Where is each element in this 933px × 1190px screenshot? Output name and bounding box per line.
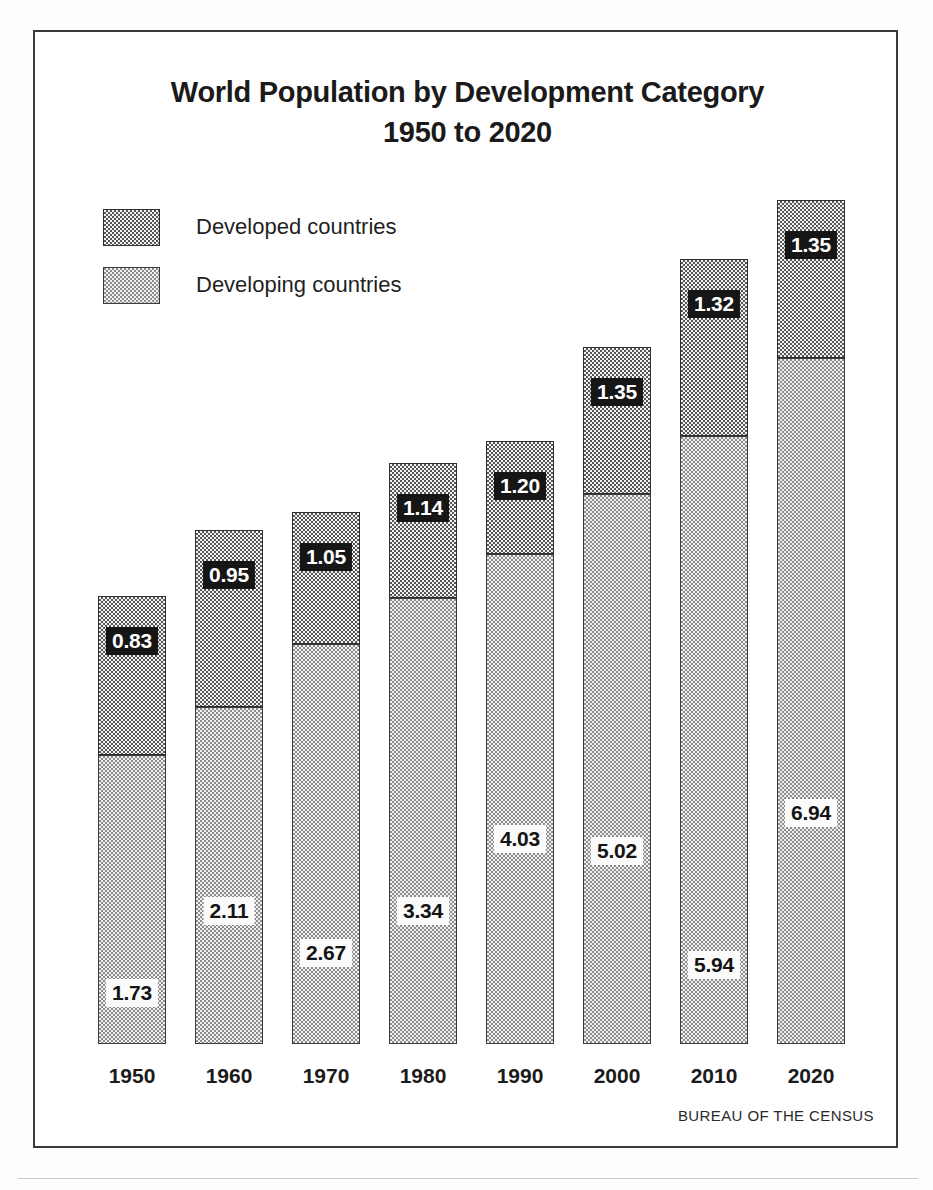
bar-value-label-developed: 1.32 xyxy=(688,290,740,318)
bar-segment-developed[interactable]: 1.35 xyxy=(777,200,845,358)
bar-group[interactable]: 1.143.34 xyxy=(389,463,457,1044)
bar-value-label-developing: 4.03 xyxy=(494,825,546,853)
bar-group[interactable]: 1.356.94 xyxy=(777,200,845,1044)
bar-group[interactable]: 1.052.67 xyxy=(292,512,360,1044)
bar-value-label-developing: 3.34 xyxy=(397,897,449,925)
bar-segment-developed[interactable]: 0.95 xyxy=(195,530,263,707)
bar-value-label-developing: 5.94 xyxy=(688,951,740,979)
bar-value-label-developing: 2.67 xyxy=(300,939,352,967)
bar-value-label-developed: 1.05 xyxy=(300,543,352,571)
bar-segment-developing[interactable]: 2.11 xyxy=(195,707,263,1044)
chart-page: World Population by Development Category… xyxy=(0,0,933,1190)
bar-value-label-developing: 6.94 xyxy=(785,799,837,827)
x-axis-tick-label: 1990 xyxy=(497,1064,544,1088)
bar-value-label-developed: 0.95 xyxy=(203,561,255,589)
bar-value-label-developing: 1.73 xyxy=(106,979,158,1007)
x-axis-tick-label: 1960 xyxy=(206,1064,253,1088)
bar-group[interactable]: 0.831.73 xyxy=(98,596,166,1044)
bar-segment-developed[interactable]: 1.32 xyxy=(680,259,748,436)
x-axis-tick-label: 2000 xyxy=(594,1064,641,1088)
bar-segment-developing[interactable]: 4.03 xyxy=(486,554,554,1044)
x-axis-tick-label: 1980 xyxy=(400,1064,447,1088)
x-axis-tick-label: 2020 xyxy=(788,1064,835,1088)
source-credit: BUREAU OF THE CENSUS xyxy=(678,1107,874,1124)
bar-value-label-developed: 1.35 xyxy=(785,231,837,259)
page-bottom-rule xyxy=(18,1178,918,1179)
bar-segment-developing[interactable]: 3.34 xyxy=(389,598,457,1044)
bar-group[interactable]: 0.952.11 xyxy=(195,530,263,1044)
bar-value-label-developed: 1.35 xyxy=(591,378,643,406)
bar-segment-developed[interactable]: 0.83 xyxy=(98,596,166,755)
bar-group[interactable]: 1.204.03 xyxy=(486,441,554,1044)
bar-segment-developed[interactable]: 1.05 xyxy=(292,512,360,644)
bar-group[interactable]: 1.325.94 xyxy=(680,259,748,1044)
bar-group[interactable]: 1.355.02 xyxy=(583,347,651,1044)
bar-segment-developed[interactable]: 1.20 xyxy=(486,441,554,554)
bar-segment-developing[interactable]: 6.94 xyxy=(777,358,845,1044)
bar-segment-developing[interactable]: 2.67 xyxy=(292,644,360,1044)
bar-value-label-developed: 0.83 xyxy=(106,627,158,655)
x-axis-tick-label: 2010 xyxy=(691,1064,738,1088)
x-axis-tick-label: 1950 xyxy=(109,1064,156,1088)
bar-segment-developed[interactable]: 1.35 xyxy=(583,347,651,494)
bar-value-label-developed: 1.20 xyxy=(494,472,546,500)
bar-segment-developed[interactable]: 1.14 xyxy=(389,463,457,598)
bar-segment-developing[interactable]: 5.02 xyxy=(583,494,651,1044)
bar-segment-developing[interactable]: 1.73 xyxy=(98,755,166,1044)
plot-area: 0.831.7319500.952.1119601.052.6719701.14… xyxy=(35,32,900,1150)
bar-value-label-developed: 1.14 xyxy=(397,494,449,522)
chart-frame: World Population by Development Category… xyxy=(33,30,898,1148)
x-axis-tick-label: 1970 xyxy=(303,1064,350,1088)
bar-segment-developing[interactable]: 5.94 xyxy=(680,436,748,1044)
bar-value-label-developing: 2.11 xyxy=(204,897,255,925)
bar-value-label-developing: 5.02 xyxy=(591,837,643,865)
